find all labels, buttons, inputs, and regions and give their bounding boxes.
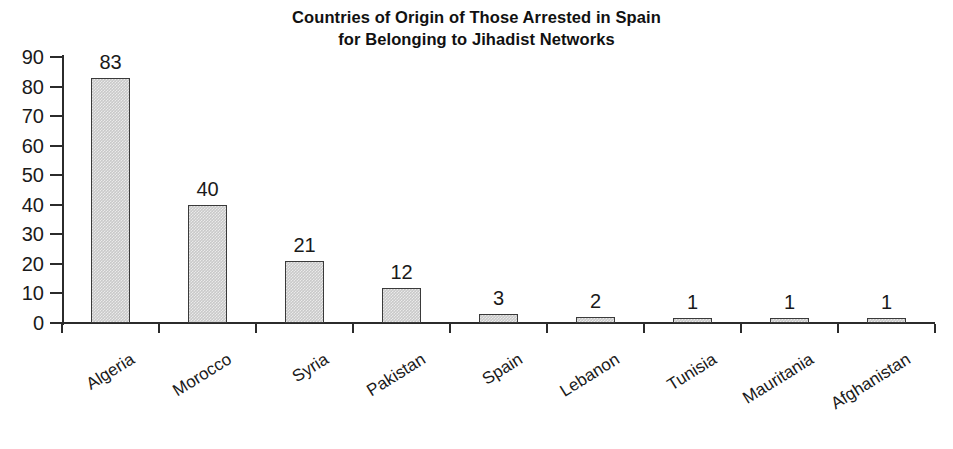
- bar: [770, 318, 809, 323]
- y-tick-mark: [50, 233, 62, 235]
- y-axis-line: [62, 55, 64, 325]
- y-tick-mark: [50, 204, 62, 206]
- y-tick-label: 40: [0, 195, 44, 215]
- y-tick-label: 60: [0, 136, 44, 156]
- bar: [91, 78, 130, 323]
- x-tick-mark: [255, 324, 257, 333]
- bar-chart-figure: Countries of Origin of Those Arrested in…: [0, 0, 953, 449]
- y-tick-label: 80: [0, 77, 44, 97]
- bar: [382, 288, 421, 323]
- y-tick-label: 20: [0, 254, 44, 274]
- bar-value-label: 3: [459, 288, 539, 308]
- y-tick-label: 70: [0, 106, 44, 126]
- y-tick-mark: [50, 174, 62, 176]
- plot-area: 0102030405060708090 8340211232111 Algeri…: [0, 0, 953, 449]
- y-tick-mark: [50, 115, 62, 117]
- y-tick-label: 50: [0, 165, 44, 185]
- y-tick-label: 10: [0, 283, 44, 303]
- bar-value-label: 1: [750, 292, 830, 312]
- bar-value-label: 21: [265, 235, 345, 255]
- x-tick-mark: [643, 324, 645, 333]
- bar-value-label: 2: [556, 291, 636, 311]
- y-tick-mark: [50, 263, 62, 265]
- y-tick-mark: [50, 292, 62, 294]
- x-tick-mark: [740, 324, 742, 333]
- x-tick-mark: [352, 324, 354, 333]
- bar: [867, 318, 906, 323]
- bar: [285, 261, 324, 323]
- x-tick-mark: [158, 324, 160, 333]
- bar: [188, 205, 227, 323]
- bar-value-label: 40: [168, 179, 248, 199]
- y-tick-label: 30: [0, 224, 44, 244]
- y-tick-mark: [50, 56, 62, 58]
- y-tick-label: 0: [0, 313, 44, 333]
- bar: [673, 318, 712, 323]
- y-tick-mark: [50, 145, 62, 147]
- x-tick-mark: [934, 324, 936, 333]
- bar-value-label: 83: [71, 52, 151, 72]
- x-tick-mark: [449, 324, 451, 333]
- x-tick-mark: [837, 324, 839, 333]
- y-tick-label: 90: [0, 47, 44, 67]
- bar: [576, 317, 615, 323]
- bar-value-label: 1: [847, 292, 927, 312]
- y-tick-mark: [50, 86, 62, 88]
- bar-value-label: 1: [653, 292, 733, 312]
- bar-value-label: 12: [362, 262, 442, 282]
- bar: [479, 314, 518, 323]
- x-tick-mark: [546, 324, 548, 333]
- x-tick-mark: [61, 324, 63, 333]
